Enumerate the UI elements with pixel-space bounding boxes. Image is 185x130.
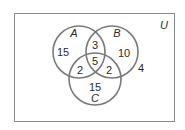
universe-label: U bbox=[160, 20, 168, 31]
set-label-b: B bbox=[113, 28, 120, 39]
region-outside: 4 bbox=[138, 63, 144, 74]
set-label-c: C bbox=[91, 93, 99, 104]
region-b-c: 2 bbox=[106, 65, 112, 76]
region-c-only: 15 bbox=[89, 82, 101, 93]
region-b-only: 10 bbox=[118, 48, 130, 59]
venn-diagram: U A B C 15 10 15 3 2 2 5 4 bbox=[0, 0, 185, 130]
region-a-b-c: 5 bbox=[92, 56, 98, 67]
region-a-b: 3 bbox=[92, 40, 98, 51]
region-a-only: 15 bbox=[57, 47, 69, 58]
set-label-a: A bbox=[70, 28, 77, 39]
region-a-c: 2 bbox=[77, 65, 83, 76]
